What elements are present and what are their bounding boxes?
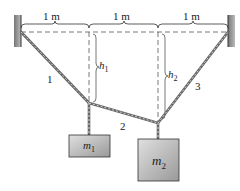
span-braces [21, 21, 228, 28]
rope-label-2: 2 [120, 120, 126, 132]
rope-label-1: 1 [47, 73, 53, 85]
span-label-3: 1 m [183, 10, 200, 22]
mass-label-m1: m1 [83, 139, 95, 154]
mass-label-m2: m2 [152, 153, 166, 171]
rope-label-3: 3 [195, 80, 201, 92]
height-label-h1: h1 [99, 59, 109, 74]
span-label-1: 1 m [43, 10, 60, 22]
height-label-h2: h2 [168, 68, 178, 83]
right-wall [228, 15, 235, 47]
left-wall [14, 15, 21, 47]
diagram-canvas [0, 0, 240, 191]
height-guides [89, 32, 168, 123]
span-label-2: 1 m [113, 10, 130, 22]
